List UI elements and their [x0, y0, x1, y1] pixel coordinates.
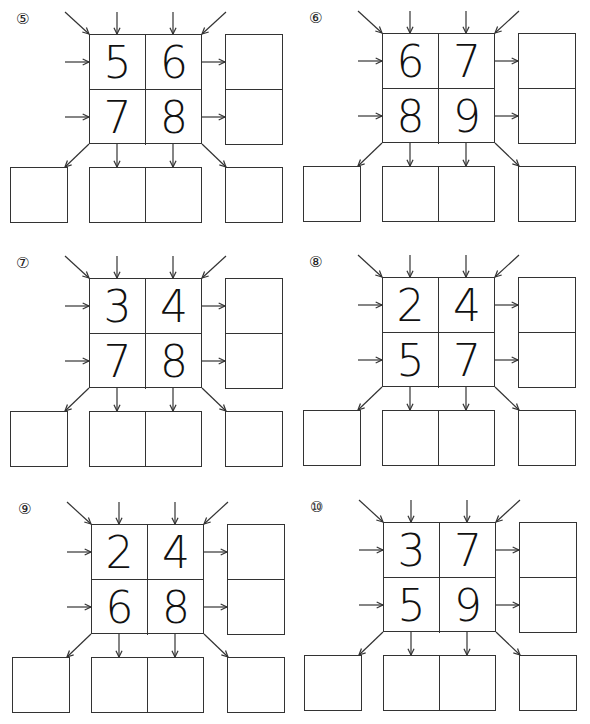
row-1-answer-box[interactable] — [227, 524, 285, 580]
right-arrow-icon — [65, 358, 89, 364]
down-arrow-icon — [407, 143, 413, 166]
grid-number-cell: 5 — [90, 35, 146, 90]
row-2-answer-box[interactable] — [225, 333, 283, 389]
right-arrow-icon — [358, 357, 382, 363]
grid-number-cell: 9 — [440, 578, 496, 633]
diagonal-down-right-arrow-icon — [496, 632, 520, 655]
grid-number-cell: 5 — [383, 333, 439, 388]
grid-number-cell: 5 — [384, 578, 440, 633]
down-arrow-icon — [114, 144, 120, 167]
grid-number-cell: 3 — [384, 523, 440, 578]
row-2-answer-box[interactable] — [225, 89, 283, 145]
diagonal-left-answer-box[interactable] — [303, 410, 361, 466]
diagonal-right-answer-box[interactable] — [518, 166, 576, 222]
diagonal-down-left-arrow-icon — [67, 634, 91, 657]
diagonal-down-left-arrow-icon — [65, 388, 89, 411]
diagonal-down-left-arrow-icon — [495, 11, 519, 33]
right-arrow-icon — [202, 358, 225, 364]
column-2-answer-box[interactable] — [438, 410, 495, 466]
down-arrow-icon — [170, 12, 176, 34]
down-arrow-icon — [170, 256, 176, 278]
grid-number-cell: 8 — [383, 89, 439, 144]
number-grid: 2457 — [382, 277, 495, 387]
column-2-answer-box[interactable] — [147, 657, 204, 713]
row-1-answer-box[interactable] — [519, 522, 577, 578]
diagonal-right-answer-box[interactable] — [225, 167, 283, 223]
column-2-answer-box[interactable] — [438, 166, 495, 222]
right-arrow-icon — [495, 113, 518, 119]
right-arrow-icon — [495, 58, 518, 64]
column-1-answer-box[interactable] — [89, 167, 147, 223]
diagonal-down-right-arrow-icon — [495, 387, 519, 410]
right-arrow-icon — [202, 114, 225, 120]
row-2-answer-box[interactable] — [518, 332, 576, 388]
row-2-answer-box[interactable] — [518, 88, 576, 144]
down-arrow-icon — [114, 256, 120, 278]
right-arrow-icon — [495, 302, 518, 308]
column-1-answer-box[interactable] — [89, 411, 147, 467]
right-arrow-icon — [204, 549, 227, 555]
diagonal-down-right-arrow-icon — [65, 12, 89, 34]
row-2-answer-box[interactable] — [227, 579, 285, 635]
down-arrow-icon — [407, 11, 413, 33]
down-arrow-icon — [463, 387, 469, 410]
grid-number-cell: 3 — [90, 279, 146, 334]
column-2-answer-box[interactable] — [145, 411, 202, 467]
grid-number-cell: 4 — [439, 278, 495, 333]
number-grid: 3478 — [89, 278, 202, 388]
diagonal-down-right-arrow-icon — [358, 11, 382, 33]
grid-number-cell: 6 — [146, 35, 202, 90]
diagonal-right-answer-box[interactable] — [225, 411, 283, 467]
row-1-answer-box[interactable] — [518, 33, 576, 89]
diagonal-left-answer-box[interactable] — [303, 166, 361, 222]
diagonal-left-answer-box[interactable] — [12, 657, 70, 713]
puzzle-10: ⑩3759 — [302, 500, 590, 724]
down-arrow-icon — [407, 387, 413, 410]
row-1-answer-box[interactable] — [518, 277, 576, 333]
right-arrow-icon — [65, 59, 89, 65]
diagonal-left-answer-box[interactable] — [10, 167, 68, 223]
down-arrow-icon — [463, 143, 469, 166]
diagonal-down-right-arrow-icon — [67, 502, 91, 524]
diagonal-down-left-arrow-icon — [202, 256, 226, 278]
puzzle-8: ⑧2457 — [301, 255, 590, 485]
puzzle-6: ⑥6789 — [301, 11, 590, 241]
column-1-answer-box[interactable] — [382, 166, 440, 222]
right-arrow-icon — [358, 58, 382, 64]
diagonal-down-left-arrow-icon — [358, 143, 382, 166]
diagonal-down-left-arrow-icon — [202, 12, 226, 34]
column-1-answer-box[interactable] — [382, 410, 440, 466]
right-arrow-icon — [65, 114, 89, 120]
right-arrow-icon — [202, 303, 225, 309]
grid-number-cell: 2 — [92, 525, 148, 580]
diagonal-down-left-arrow-icon — [204, 502, 228, 524]
diagonal-right-answer-box[interactable] — [519, 655, 577, 711]
row-1-answer-box[interactable] — [225, 34, 283, 90]
grid-number-cell: 8 — [146, 334, 202, 389]
down-arrow-icon — [408, 632, 414, 655]
column-2-answer-box[interactable] — [439, 655, 496, 711]
down-arrow-icon — [464, 632, 470, 655]
diagonal-down-right-arrow-icon — [202, 144, 226, 167]
column-2-answer-box[interactable] — [145, 167, 202, 223]
grid-number-cell: 7 — [440, 523, 496, 578]
down-arrow-icon — [463, 11, 469, 33]
right-arrow-icon — [65, 303, 89, 309]
right-arrow-icon — [358, 302, 382, 308]
diagonal-right-answer-box[interactable] — [227, 657, 285, 713]
right-arrow-icon — [204, 604, 227, 610]
column-1-answer-box[interactable] — [91, 657, 149, 713]
right-arrow-icon — [67, 604, 91, 610]
column-1-answer-box[interactable] — [383, 655, 441, 711]
number-grid: 6789 — [382, 33, 495, 143]
down-arrow-icon — [170, 144, 176, 167]
diagonal-right-answer-box[interactable] — [518, 410, 576, 466]
down-arrow-icon — [407, 255, 413, 277]
row-1-answer-box[interactable] — [225, 278, 283, 334]
diagonal-down-right-arrow-icon — [359, 500, 383, 522]
diagonal-down-right-arrow-icon — [358, 255, 382, 277]
diagonal-left-answer-box[interactable] — [304, 655, 362, 711]
down-arrow-icon — [463, 255, 469, 277]
diagonal-left-answer-box[interactable] — [10, 411, 68, 467]
row-2-answer-box[interactable] — [519, 577, 577, 633]
